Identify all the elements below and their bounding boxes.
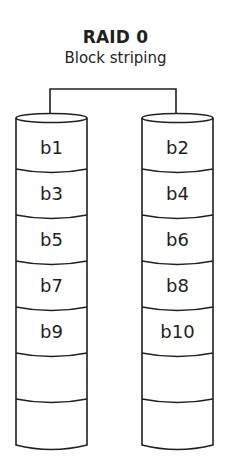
block-cell: b9	[40, 321, 63, 342]
block-cell: b3	[40, 183, 63, 204]
block-label: b4	[166, 183, 189, 204]
disk-2: b2b4b6b8b10	[142, 114, 213, 450]
block-cell: b8	[166, 275, 189, 296]
block-label: b10	[160, 321, 194, 342]
block-cell: b10	[160, 321, 194, 342]
disk-top	[16, 114, 87, 123]
disk-1: b1b3b5b7b9	[16, 114, 87, 450]
block-label: b6	[166, 229, 189, 250]
block-cell: b4	[166, 183, 189, 204]
connector-line	[50, 89, 176, 116]
block-label: b1	[40, 137, 63, 158]
disk-top	[142, 114, 213, 123]
block-label: b3	[40, 183, 63, 204]
block-label: b9	[40, 321, 63, 342]
block-label: b2	[166, 137, 189, 158]
raid-diagram: b1b3b5b7b9b2b4b6b8b10	[0, 0, 231, 468]
block-label: b7	[40, 275, 63, 296]
block-cell: b5	[40, 229, 63, 250]
block-label: b8	[166, 275, 189, 296]
block-cell: b7	[40, 275, 63, 296]
block-cell: b1	[40, 137, 63, 158]
block-label: b5	[40, 229, 63, 250]
block-cell: b6	[166, 229, 189, 250]
block-cell: b2	[166, 137, 189, 158]
